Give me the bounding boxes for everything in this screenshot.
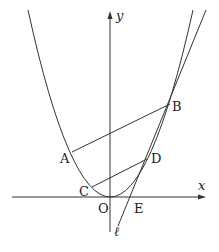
point-o-label: O (98, 201, 109, 216)
segment-cd (92, 159, 147, 187)
point-a-label: A (59, 151, 70, 166)
diagram: y x B A D C O E ℓ (0, 0, 219, 252)
point-d-label: D (151, 151, 161, 166)
x-axis-label: x (198, 178, 206, 193)
x-axis-arrow-icon (198, 195, 206, 200)
y-axis-arrow-icon (108, 11, 113, 19)
line-l (118, 10, 206, 226)
line-l-label: ℓ (114, 224, 120, 239)
point-c-label: C (79, 184, 89, 199)
point-e-label: E (134, 201, 144, 216)
y-axis-label: y (115, 8, 124, 23)
segment-ab (72, 104, 170, 152)
point-b-label: B (172, 99, 182, 114)
